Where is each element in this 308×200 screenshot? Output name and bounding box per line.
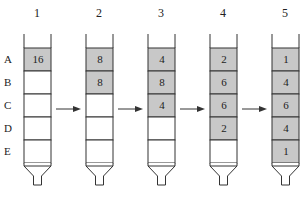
row-label-a: A <box>4 53 16 65</box>
column-number: 1 <box>23 6 51 21</box>
row-label-d: D <box>4 122 16 134</box>
diagram: ABCDE116288348442662514641 <box>0 0 308 200</box>
cell-value: 1 <box>272 53 300 65</box>
cell <box>148 117 175 140</box>
cell-value: 1 <box>272 145 300 157</box>
cell-value: 4 <box>148 99 176 111</box>
arrow-right-icon <box>56 105 81 113</box>
arrow-right-icon <box>242 105 267 113</box>
row-label-c: C <box>4 99 16 111</box>
arrow-right-icon <box>180 105 205 113</box>
cell-value: 4 <box>272 76 300 88</box>
column-number: 5 <box>271 6 299 21</box>
cell-value: 6 <box>272 99 300 111</box>
arrow-right-icon <box>118 105 143 113</box>
column-number: 4 <box>209 6 237 21</box>
cell <box>86 117 113 140</box>
cell <box>24 117 51 140</box>
cell <box>24 71 51 94</box>
cell-value: 8 <box>148 76 176 88</box>
cell-value: 16 <box>24 53 52 65</box>
cell <box>86 94 113 117</box>
cell <box>210 140 237 163</box>
cell-value: 6 <box>210 76 238 88</box>
cell-value: 8 <box>86 53 114 65</box>
cell <box>24 94 51 117</box>
row-label-b: B <box>4 76 16 88</box>
row-label-e: E <box>4 145 16 157</box>
cell <box>24 140 51 163</box>
column-number: 3 <box>147 6 175 21</box>
cell-value: 4 <box>148 53 176 65</box>
cell-value: 6 <box>210 99 238 111</box>
cell-value: 2 <box>210 122 238 134</box>
cell-value: 4 <box>272 122 300 134</box>
cell-value: 8 <box>86 76 114 88</box>
column-number: 2 <box>85 6 113 21</box>
cell-value: 2 <box>210 53 238 65</box>
cell <box>86 140 113 163</box>
cell <box>148 140 175 163</box>
